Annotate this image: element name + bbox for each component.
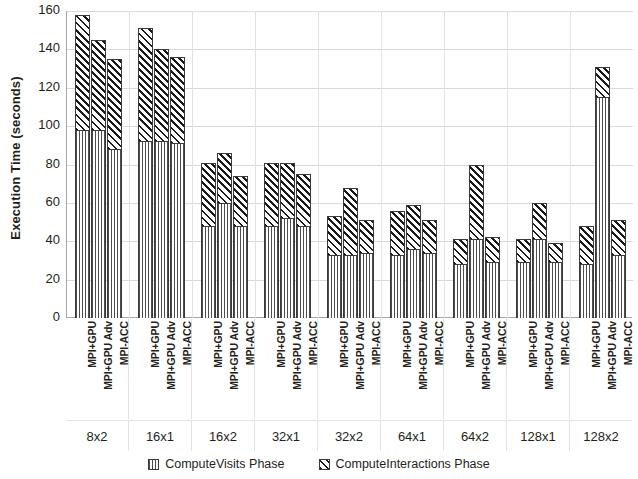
series-axis-labels: MPI+GPUMPI+GPU AdvMPI-ACCMPI+GPUMPI+GPU …	[66, 319, 632, 419]
y-axis-tick-label: 0	[18, 309, 60, 324]
bar-segment-computeinteractions	[296, 174, 311, 226]
series-label-group: MPI+GPUMPI+GPU AdvMPI-ACC	[192, 319, 255, 419]
stacked-bar[interactable]	[201, 163, 216, 318]
stacked-bar[interactable]	[107, 59, 122, 318]
bar-segment-computeinteractions	[453, 239, 468, 264]
stacked-bar[interactable]	[406, 205, 421, 318]
series-label-group: MPI+GPUMPI+GPU AdvMPI-ACC	[381, 319, 444, 419]
bar-segment-computevisits	[280, 218, 295, 318]
bar-segment-computevisits	[201, 226, 216, 318]
bar-chart: Execution Time (seconds) 020406080100120…	[0, 0, 638, 479]
bar-segment-computevisits	[170, 143, 185, 318]
stacked-bar[interactable]	[532, 203, 547, 318]
series-axis-label-cell: MPI+GPU	[263, 319, 278, 419]
bar-segment-computeinteractions	[107, 59, 122, 149]
bar-group	[508, 11, 571, 318]
chart-legend: ComputeVisits PhaseComputeInteractions P…	[0, 452, 638, 476]
series-axis-label-cell: MPI+GPU Adv	[468, 319, 483, 419]
bar-segment-computeinteractions	[280, 163, 295, 219]
series-axis-label: MPI-ACC	[622, 321, 634, 365]
bar-segment-computeinteractions	[138, 28, 153, 141]
stacked-bar[interactable]	[579, 226, 594, 318]
bar-segment-computeinteractions	[611, 220, 626, 255]
category-axis-label: 16x2	[192, 421, 255, 451]
stacked-bar[interactable]	[359, 220, 374, 318]
y-axis-tick-label: 120	[18, 79, 60, 94]
bar-segment-computevisits	[422, 253, 437, 318]
series-axis-label-cell: MPI-ACC	[421, 319, 436, 419]
bar-segment-computevisits	[579, 264, 594, 318]
bar-segment-computeinteractions	[390, 211, 405, 255]
y-axis-tick-label: 80	[18, 156, 60, 171]
category-axis-label: 32x1	[255, 421, 318, 451]
stacked-bar[interactable]	[469, 165, 484, 318]
bar-segment-computevisits	[138, 141, 153, 318]
y-axis-tick-label: 60	[18, 194, 60, 209]
bar-segment-computevisits	[485, 262, 500, 318]
legend-item[interactable]: ComputeInteractions Phase	[319, 457, 490, 471]
series-axis-label-cell: MPI+GPU Adv	[90, 319, 105, 419]
stacked-bar[interactable]	[233, 176, 248, 318]
stacked-bar[interactable]	[516, 239, 531, 318]
series-axis-label-cell: MPI-ACC	[610, 319, 625, 419]
bar-segment-computeinteractions	[154, 49, 169, 141]
bar-segment-computevisits	[264, 226, 279, 318]
bar-segment-computeinteractions	[327, 216, 342, 254]
bar-segment-computeinteractions	[469, 165, 484, 240]
bar-group	[319, 11, 382, 318]
stacked-bar[interactable]	[611, 220, 626, 318]
series-axis-label-cell: MPI+GPU	[389, 319, 404, 419]
bar-segment-computevisits	[359, 253, 374, 318]
bar-group	[445, 11, 508, 318]
stacked-bar[interactable]	[343, 188, 358, 318]
stacked-bar[interactable]	[390, 211, 405, 318]
stacked-bar[interactable]	[548, 243, 563, 318]
stacked-bar[interactable]	[154, 49, 169, 318]
series-axis-label-cell: MPI-ACC	[484, 319, 499, 419]
stacked-bar[interactable]	[264, 163, 279, 318]
bar-group	[256, 11, 319, 318]
bar-segment-computeinteractions	[579, 226, 594, 264]
stacked-bar[interactable]	[453, 239, 468, 318]
series-axis-label-cell: MPI-ACC	[106, 319, 121, 419]
stacked-bar[interactable]	[595, 67, 610, 318]
series-label-group: MPI+GPUMPI+GPU AdvMPI-ACC	[66, 319, 129, 419]
stacked-bar[interactable]	[75, 15, 90, 318]
legend-item[interactable]: ComputeVisits Phase	[148, 457, 284, 471]
stacked-bar[interactable]	[138, 28, 153, 318]
series-axis-label-cell: MPI+GPU	[452, 319, 467, 419]
bar-segment-computeinteractions	[201, 163, 216, 226]
stacked-bar[interactable]	[485, 237, 500, 318]
bar-segment-computeinteractions	[532, 203, 547, 239]
bar-segment-computeinteractions	[516, 239, 531, 262]
stacked-bar[interactable]	[422, 220, 437, 318]
series-axis-label-cell: MPI-ACC	[232, 319, 247, 419]
stacked-bar[interactable]	[280, 163, 295, 318]
y-axis-tick-label: 160	[18, 2, 60, 17]
stacked-bar[interactable]	[91, 40, 106, 318]
series-axis-label-cell: MPI+GPU	[74, 319, 89, 419]
stacked-bar[interactable]	[170, 57, 185, 318]
stacked-bar[interactable]	[327, 216, 342, 318]
bar-segment-computevisits	[390, 255, 405, 318]
legend-label: ComputeInteractions Phase	[336, 457, 490, 471]
bar-segment-computevisits	[91, 130, 106, 318]
plot-area	[66, 11, 632, 318]
bar-segment-computeinteractions	[75, 15, 90, 130]
y-axis-tick-label: 20	[18, 271, 60, 286]
bar-group	[571, 11, 633, 318]
legend-label: ComputeVisits Phase	[165, 457, 284, 471]
bar-group	[382, 11, 445, 318]
category-axis-label: 128x2	[570, 421, 632, 451]
stacked-bar[interactable]	[296, 174, 311, 318]
stacked-bar[interactable]	[217, 153, 232, 318]
category-axis-label: 16x1	[129, 421, 192, 451]
y-axis-tick-label: 100	[18, 117, 60, 132]
series-axis-label-cell: MPI-ACC	[547, 319, 562, 419]
bar-segment-computevisits	[343, 255, 358, 318]
legend-swatch-computeinteractions-icon	[319, 459, 330, 470]
series-axis-label-cell: MPI+GPU Adv	[153, 319, 168, 419]
bar-segment-computeinteractions	[548, 243, 563, 262]
series-axis-label-cell: MPI-ACC	[295, 319, 310, 419]
series-axis-label-cell: MPI-ACC	[358, 319, 373, 419]
